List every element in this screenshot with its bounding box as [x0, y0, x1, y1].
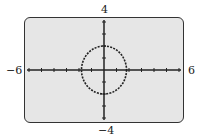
x-min-label: −6 [6, 65, 22, 76]
y-max-label: 4 [101, 4, 108, 15]
y-min-label: −4 [98, 125, 114, 136]
x-max-label: 6 [188, 65, 195, 76]
plot-area [0, 0, 200, 139]
